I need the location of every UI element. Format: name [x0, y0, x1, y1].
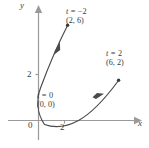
annotation-t-0: t = 0 (0, 0) [37, 92, 55, 110]
annotation-t-neg-2-t-value: −2 [78, 7, 87, 16]
parametric-curve-figure: y x 2 2 0 t = −2 (2, 6) t = 2 (6, 2) t =… [0, 0, 149, 148]
annotation-t-0-t-value: 0 [49, 91, 53, 100]
upper-branch-direction-arrow-icon [54, 42, 61, 55]
annotation-t-2: t = 2 (6, 2) [106, 50, 124, 68]
endpoint-dot-t-2 [117, 79, 120, 82]
annotation-t-0-point: (0, 0) [37, 101, 55, 110]
annotation-t-2-t-value: 2 [118, 49, 122, 58]
annotation-t-neg-2: t = −2 (2, 6) [66, 8, 87, 26]
y-axis-label: y [20, 1, 24, 11]
lower-branch-direction-arrow-icon [93, 93, 105, 99]
parametric-curve-lower-branch [45, 81, 119, 127]
annotation-t-0-t-label: t = [37, 91, 49, 100]
origin-label: 0 [28, 121, 33, 131]
annotation-t-neg-2-t-label: t = [66, 7, 78, 16]
y-axis [35, 5, 42, 140]
annotation-t-2-point: (6, 2) [106, 59, 124, 68]
annotation-t-neg-2-point: (2, 6) [66, 17, 87, 26]
x-axis-tick-label-2: 2 [60, 123, 65, 133]
annotation-t-2-t-label: t = [106, 49, 118, 58]
x-axis-label: x [138, 119, 142, 129]
y-axis-tick-label-2: 2 [27, 70, 32, 80]
